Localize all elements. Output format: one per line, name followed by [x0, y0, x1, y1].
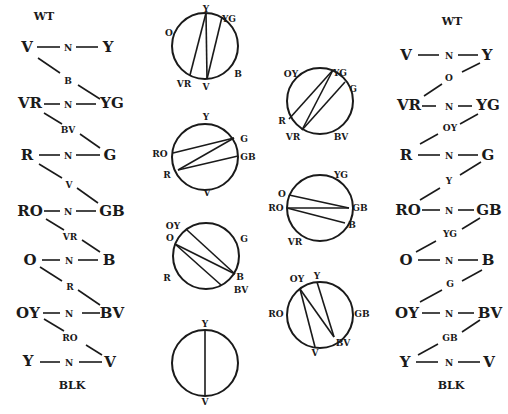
- diag-line: [46, 219, 64, 230]
- chord-line: [173, 138, 234, 153]
- circle-1-label: Y: [202, 4, 210, 14]
- right-row-1-mid: N: [445, 51, 453, 61]
- left-row-5-left: O: [23, 251, 36, 269]
- right-row-1-left: V: [399, 46, 412, 64]
- circle-7-label: RO: [268, 309, 283, 319]
- circle-2-label: G: [240, 134, 248, 144]
- diag-line: [420, 188, 440, 200]
- left-link-2: BV: [61, 125, 77, 135]
- circle-1-label: VR: [176, 79, 192, 89]
- circle-4: Y V: [172, 319, 238, 407]
- circle-1-label: O: [165, 28, 173, 38]
- circle-6: YG O RO GB B VR: [268, 170, 368, 247]
- circle-1-label: YG: [221, 14, 236, 24]
- right-row-3: R N G: [400, 146, 495, 164]
- right-row-5-mid: N: [445, 256, 453, 266]
- circle-6-label: O: [278, 189, 286, 199]
- right-top-label: WT: [441, 15, 463, 28]
- circle-3: OY O G R B BV: [163, 221, 249, 295]
- circle-3-label: OY: [166, 221, 181, 231]
- left-link-5: R: [66, 282, 74, 292]
- chord-line: [187, 230, 235, 274]
- circle-6-label: B: [348, 220, 356, 230]
- circle-3-label: O: [166, 233, 174, 243]
- circle-4-label: Y: [201, 319, 209, 329]
- circle-2-label: Y: [202, 112, 210, 122]
- diag-line: [462, 270, 482, 281]
- circle-6-label: VR: [287, 237, 303, 247]
- circle-5-label: OY: [284, 69, 299, 79]
- chord-line: [190, 13, 206, 75]
- left-row-5-right: B: [103, 251, 116, 269]
- chord-line: [317, 282, 334, 337]
- right-row-2: VR N YG: [396, 96, 500, 114]
- diag-line: [416, 241, 436, 252]
- right-row-6-mid: N: [445, 309, 453, 319]
- circle-1-label: B: [234, 69, 242, 79]
- circle-1-label: V: [202, 82, 211, 92]
- left-row-2: VR N YG: [17, 94, 124, 112]
- left-row-4-mid: N: [64, 207, 72, 217]
- circle-5: OY YG G R VR BV: [278, 68, 357, 142]
- right-link-5: G: [446, 279, 454, 289]
- diag-line: [462, 320, 480, 332]
- right-row-6-right: BV: [478, 304, 503, 322]
- circle-5-label: R: [278, 116, 286, 126]
- chord-line: [178, 156, 238, 170]
- right-row-1: V N Y: [399, 46, 492, 64]
- diag-line: [86, 345, 102, 355]
- right-row-7-left: Y: [399, 353, 411, 371]
- circle-5-label: G: [349, 84, 357, 94]
- right-row-4-left: RO: [395, 201, 421, 219]
- left-row-2-mid: N: [64, 100, 72, 110]
- diag-line: [77, 188, 98, 203]
- circle-2-label: RO: [152, 149, 167, 159]
- right-row-2-mid: N: [445, 102, 453, 112]
- color-circle-diagram: WT V N Y B VR N YG BV R N G: [0, 0, 508, 414]
- left-row-3-left: R: [21, 146, 34, 164]
- left-row-7-right: V: [103, 353, 116, 371]
- circle-2: Y G RO GB R V: [152, 112, 256, 198]
- left-row-4-right: GB: [99, 202, 125, 220]
- right-link-2: OY: [443, 123, 458, 133]
- diag-line: [418, 344, 438, 355]
- left-row-5-mid: N: [65, 256, 73, 266]
- right-row-2-right: YG: [475, 96, 500, 114]
- circle-outline: [173, 223, 239, 289]
- diag-line: [40, 267, 62, 281]
- right-link-4: YG: [442, 229, 457, 239]
- left-row-6-right: BV: [100, 304, 125, 322]
- right-link-6: GB: [442, 333, 458, 343]
- left-link-3: V: [65, 180, 74, 190]
- diag-line: [462, 63, 480, 72]
- circle-4-label: V: [201, 397, 210, 407]
- right-row-3-mid: N: [445, 151, 453, 161]
- left-row-5: O N B: [23, 251, 115, 269]
- circle-3-label: BV: [234, 285, 250, 295]
- diag-line: [44, 319, 64, 331]
- left-link-4: VR: [62, 232, 78, 242]
- left-link-6: RO: [62, 333, 77, 343]
- circle-2-label: V: [203, 188, 212, 198]
- diag-line: [420, 290, 442, 302]
- circle-7: OY Y RO GB V BV: [268, 271, 370, 358]
- right-link-1: O: [445, 73, 453, 83]
- circle-7-label: BV: [336, 338, 352, 348]
- right-link-3: Y: [445, 176, 453, 186]
- chord-line: [300, 289, 315, 347]
- right-row-4-mid: N: [445, 206, 453, 216]
- diag-line: [420, 134, 438, 144]
- chord-line: [287, 208, 345, 223]
- left-bottom-label: BLK: [59, 379, 86, 392]
- circle-6-label: RO: [268, 203, 283, 213]
- left-link-1: B: [64, 76, 72, 86]
- diag-line: [460, 162, 481, 175]
- right-row-7-mid: N: [445, 358, 453, 368]
- chord-line: [178, 138, 234, 170]
- circle-6-label: YG: [333, 170, 348, 180]
- chord-line: [206, 13, 207, 79]
- circle-5-label: YG: [332, 68, 347, 78]
- chord-line: [207, 17, 222, 79]
- circle-2-label: GB: [240, 152, 256, 162]
- right-row-3-right: G: [482, 146, 495, 164]
